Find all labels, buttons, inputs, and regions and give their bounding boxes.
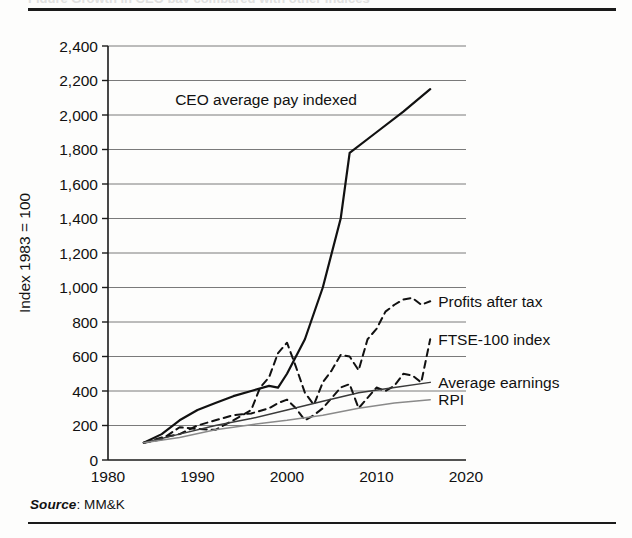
annotation-ceo-average-pay: CEO average pay indexed [175, 91, 357, 108]
line-chart: 02004006008001,0001,2001,4001,6001,8002,… [0, 0, 632, 500]
series-line-rpi [144, 400, 430, 443]
chart-canvas: 02004006008001,0001,2001,4001,6001,8002,… [0, 0, 632, 500]
y-tick-label: 800 [72, 314, 98, 331]
y-tick-label: 0 [89, 452, 98, 469]
series-label-average-earnings: Average earnings [438, 374, 559, 391]
figure-page: Figure Growth in CEO pay compared with o… [0, 0, 632, 538]
x-tick-label: 2020 [449, 468, 484, 485]
y-tick-label: 600 [72, 348, 98, 365]
source-label: Source [30, 497, 76, 512]
y-tick-label: 1,400 [59, 210, 98, 227]
y-tick-label: 1,200 [59, 245, 98, 262]
x-tick-label: 2010 [359, 468, 394, 485]
x-tick-label: 2000 [270, 468, 305, 485]
y-tick-label: 2,400 [59, 38, 98, 55]
y-tick-label: 2,000 [59, 107, 98, 124]
x-tick-label: 1990 [180, 468, 215, 485]
source-separator: : [76, 497, 84, 512]
y-tick-label: 200 [72, 417, 98, 434]
y-tick-label: 1,600 [59, 176, 98, 193]
series-label-rpi: RPI [438, 391, 464, 408]
bottom-rule [28, 522, 616, 525]
series-label-profits-after-tax: Profits after tax [438, 293, 542, 310]
y-axis-title: Index 1983 = 100 [16, 193, 33, 314]
y-tick-label: 2,200 [59, 72, 98, 89]
series-label-ftse-100-index: FTSE-100 index [438, 331, 550, 348]
y-tick-label: 400 [72, 383, 98, 400]
y-tick-label: 1,000 [59, 279, 98, 296]
x-tick-label: 1980 [91, 468, 126, 485]
y-tick-label: 1,800 [59, 141, 98, 158]
source-value: MM&K [84, 497, 125, 512]
source-note: Source: MM&K [30, 497, 125, 512]
